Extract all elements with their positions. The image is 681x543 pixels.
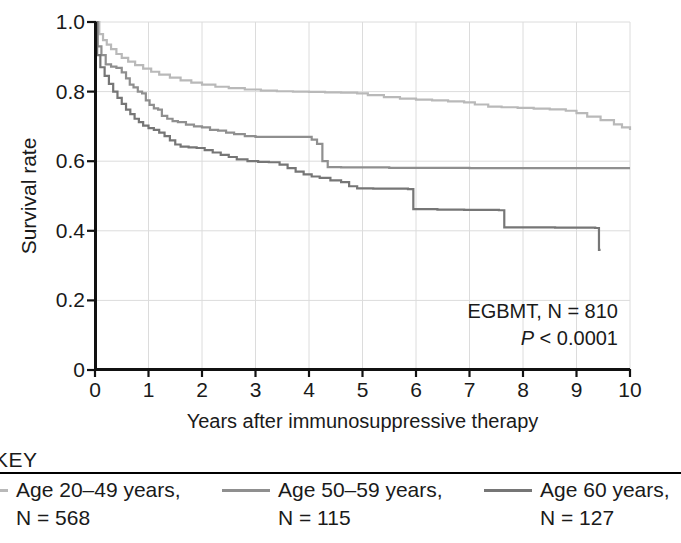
y-tick-label: 0.8: [33, 81, 85, 102]
y-tick-label: 0.2: [33, 289, 85, 310]
p-symbol: P: [521, 327, 534, 349]
legend: Age 20–49 years, N = 568 Age 50–59 years…: [0, 476, 681, 538]
x-tick-label: 10: [610, 378, 650, 402]
x-tick-label: 3: [236, 378, 276, 402]
legend-line-swatch-icon: [222, 489, 270, 492]
x-axis-label: Years after immunosuppressive therapy: [95, 410, 630, 433]
legend-label: Age 20–49 years,: [16, 476, 181, 504]
x-tick-label: 9: [557, 378, 597, 402]
x-tick-label: 1: [129, 378, 169, 402]
x-tick-label: 6: [396, 378, 436, 402]
y-tick-label: 1.0: [33, 11, 85, 32]
survival-curve-figure: Survival rate 00.20.40.60.81.0 012345678…: [0, 0, 681, 543]
y-tick-label: 0: [33, 359, 85, 380]
series-line-2: [95, 22, 601, 250]
x-tick-label: 7: [450, 378, 490, 402]
legend-label: Age 60 years,: [540, 476, 670, 504]
x-tick-label: 2: [182, 378, 222, 402]
plot-annotation: EGBMT, N = 810 P < 0.0001: [400, 298, 618, 352]
key-divider: [0, 472, 681, 474]
y-tick-label: 0.4: [33, 220, 85, 241]
p-value-text: < 0.0001: [534, 327, 618, 349]
annotation-pvalue-line: P < 0.0001: [400, 325, 618, 352]
legend-line-swatch-icon: [484, 489, 532, 492]
x-axis-ticks: 012345678910: [95, 378, 630, 404]
x-tick-label: 4: [289, 378, 329, 402]
annotation-cohort-line: EGBMT, N = 810: [400, 298, 618, 325]
x-tick-label: 8: [503, 378, 543, 402]
legend-line-swatch-icon: [0, 489, 8, 492]
key-title: KEY: [0, 449, 38, 470]
x-tick-label: 5: [343, 378, 383, 402]
legend-label: Age 50–59 years,: [278, 476, 443, 504]
legend-n-value: N = 115: [278, 504, 351, 532]
x-tick-label: 0: [75, 378, 115, 402]
legend-n-value: N = 127: [540, 504, 614, 532]
y-axis-ticks: 00.20.40.60.81.0: [33, 0, 85, 543]
y-tick-label: 0.6: [33, 150, 85, 171]
legend-n-value: N = 568: [16, 504, 90, 532]
